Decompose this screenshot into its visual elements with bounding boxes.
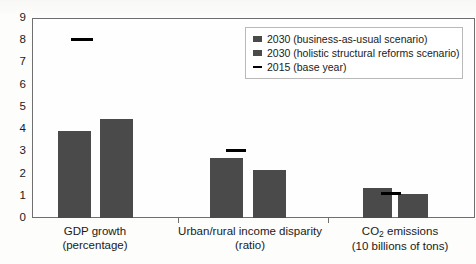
bar-urban-rural-bau: [210, 158, 243, 218]
y-tick-label-5: 5: [20, 101, 26, 113]
legend-item-2015-base-year: 2015 (base year): [253, 60, 456, 74]
legend-item-2030-reforms: 2030 (holistic structural reforms scenar…: [253, 46, 456, 60]
legend-label-2030-reforms: 2030 (holistic structural reforms scenar…: [267, 47, 460, 59]
x-axis-label-co2-pre: CO: [362, 225, 379, 237]
y-tick-label-4: 4: [20, 123, 26, 135]
x-axis-label-co2-line1: CO2 emissions: [362, 225, 438, 237]
bar-chart: 0 1 2 3 4 5 6 7 8 9: [0, 0, 476, 264]
x-axis-label-co2-post: emissions: [384, 225, 438, 237]
y-tick-label-8: 8: [20, 34, 26, 46]
bar-co2-emissions-reforms: [398, 194, 428, 218]
y-tick-label-1: 1: [20, 190, 26, 202]
legend-swatch-icon-2030-reforms: [253, 50, 262, 56]
x-axis-label-co2-subscript: 2: [379, 229, 384, 239]
y-tick-label-6: 6: [20, 79, 26, 91]
legend-label-2030-bau: 2030 (business-as-usual scenario): [267, 33, 428, 45]
y-axis: 0 1 2 3 4 5 6 7 8 9: [0, 18, 32, 218]
marker-2015-gdp-growth: [71, 38, 93, 41]
x-axis-label-gdp-growth-line1: GDP growth: [64, 225, 126, 237]
x-axis-label-gdp-growth-line2: (percentage): [30, 238, 160, 252]
marker-2015-urban-rural: [226, 149, 246, 152]
legend-item-2030-bau: 2030 (business-as-usual scenario): [253, 32, 456, 46]
y-tick-label-2: 2: [20, 168, 26, 180]
legend-swatch-icon-2030-bau: [253, 36, 262, 42]
x-axis-label-urban-rural-line2: (ratio): [160, 238, 340, 252]
x-axis-label-urban-rural-line1: Urban/rural income disparity: [178, 225, 322, 237]
legend: 2030 (business-as-usual scenario) 2030 (…: [245, 27, 463, 79]
scan-artifact-strip: [0, 0, 476, 14]
x-axis-label-co2-emissions: CO2 emissions (10 billions of tons): [330, 224, 470, 253]
x-tick-group-2: [328, 218, 329, 223]
x-axis-label-urban-rural: Urban/rural income disparity (ratio): [160, 224, 340, 252]
x-axis-label-co2-line2: (10 billions of tons): [330, 239, 470, 253]
y-tick-label-9: 9: [20, 12, 26, 24]
legend-label-2015-base-year: 2015 (base year): [267, 61, 346, 73]
y-tick-label-0: 0: [20, 212, 26, 224]
y-tick-label-3: 3: [20, 146, 26, 158]
x-tick-group-1: [178, 218, 179, 223]
bar-gdp-growth-reforms: [100, 119, 133, 218]
bar-gdp-growth-bau: [58, 131, 91, 218]
y-tick-label-7: 7: [20, 57, 26, 69]
bar-urban-rural-reforms: [253, 170, 286, 218]
legend-dash-icon-2015: [253, 66, 262, 68]
marker-2015-co2-emissions: [381, 192, 401, 195]
x-axis-label-gdp-growth: GDP growth (percentage): [30, 224, 160, 252]
